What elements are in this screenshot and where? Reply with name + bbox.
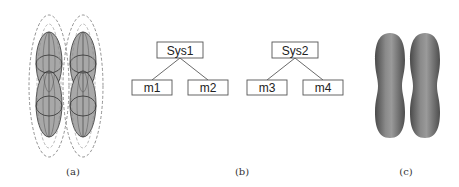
caption-a: (a) bbox=[66, 166, 80, 177]
node-sys1: Sys1 bbox=[157, 42, 203, 58]
node-m2: m2 bbox=[188, 80, 228, 95]
node-m4: m4 bbox=[303, 80, 343, 95]
node-m2-label: m2 bbox=[200, 81, 217, 95]
figure-canvas: Sys1 m1 m2 Sys2 m3 m4 bbox=[0, 0, 459, 187]
tree-sys2: Sys2 m3 m4 bbox=[247, 42, 343, 95]
panel-c-capsules bbox=[375, 33, 440, 138]
node-sys1-label: Sys1 bbox=[167, 44, 194, 58]
node-m3-label: m3 bbox=[259, 81, 276, 95]
node-m3: m3 bbox=[247, 80, 287, 95]
panel-a-ellipsoids bbox=[29, 15, 103, 157]
node-sys2: Sys2 bbox=[272, 42, 318, 58]
node-sys2-label: Sys2 bbox=[282, 44, 309, 58]
caption-b: (b) bbox=[235, 166, 249, 177]
node-m4-label: m4 bbox=[315, 81, 332, 95]
caption-c: (c) bbox=[399, 166, 412, 177]
tree-sys1: Sys1 m1 m2 bbox=[132, 42, 228, 95]
node-m1-label: m1 bbox=[144, 81, 161, 95]
panel-b-trees: Sys1 m1 m2 Sys2 m3 m4 bbox=[132, 42, 343, 95]
node-m1: m1 bbox=[132, 80, 172, 95]
right-capsule bbox=[410, 33, 440, 138]
left-capsule bbox=[375, 33, 405, 138]
left-ellipsoid-group bbox=[29, 15, 69, 157]
